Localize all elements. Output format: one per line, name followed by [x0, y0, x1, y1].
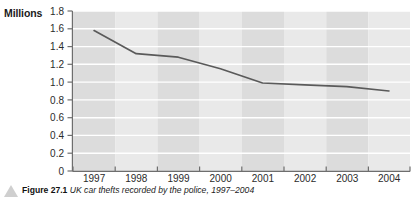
y-axis-tick-labels: 1.8 1.6 1.4 1.2 1.0 0.8 0.6 0.4 0.2 0 [50, 6, 64, 177]
y-tick-label: 1.4 [50, 41, 64, 52]
line-chart: 1.8 1.6 1.4 1.2 1.0 0.8 0.6 0.4 0.2 0 [0, 0, 415, 183]
x-tick-label: 1998 [125, 173, 148, 183]
y-tick-label: 1.2 [50, 59, 64, 70]
y-tick-label: 0.6 [50, 112, 64, 123]
plot-background-bands [73, 11, 410, 171]
x-tick-label: 2004 [378, 173, 401, 183]
y-tick-label: 0.8 [50, 95, 64, 106]
y-tick-label: 1.0 [50, 77, 64, 88]
x-tick-label: 1997 [83, 173, 106, 183]
y-tick-label: 0 [58, 166, 64, 177]
figure-caption: Figure 27.1 UK car thefts recorded by th… [0, 183, 415, 198]
caption-description: UK car thefts recorded by the police, 19… [70, 185, 254, 195]
x-tick-label: 2002 [294, 173, 317, 183]
y-tick-label: 0.2 [50, 148, 64, 159]
x-tick-label: 2003 [336, 173, 359, 183]
x-tick-label: 2001 [252, 173, 275, 183]
x-tick-label: 1999 [167, 173, 190, 183]
caption-figure-number: Figure 27.1 [22, 185, 67, 195]
y-axis [68, 11, 73, 171]
y-tick-label: 0.4 [50, 130, 64, 141]
y-tick-label: 1.6 [50, 23, 64, 34]
x-tick-label: 2000 [210, 173, 233, 183]
figure-container: Millions [0, 0, 415, 198]
triangle-bullet-icon [0, 183, 22, 198]
x-axis-tick-labels: 1997 1998 1999 2000 2001 2002 2003 2004 [83, 173, 401, 183]
y-tick-label: 1.8 [50, 6, 64, 17]
